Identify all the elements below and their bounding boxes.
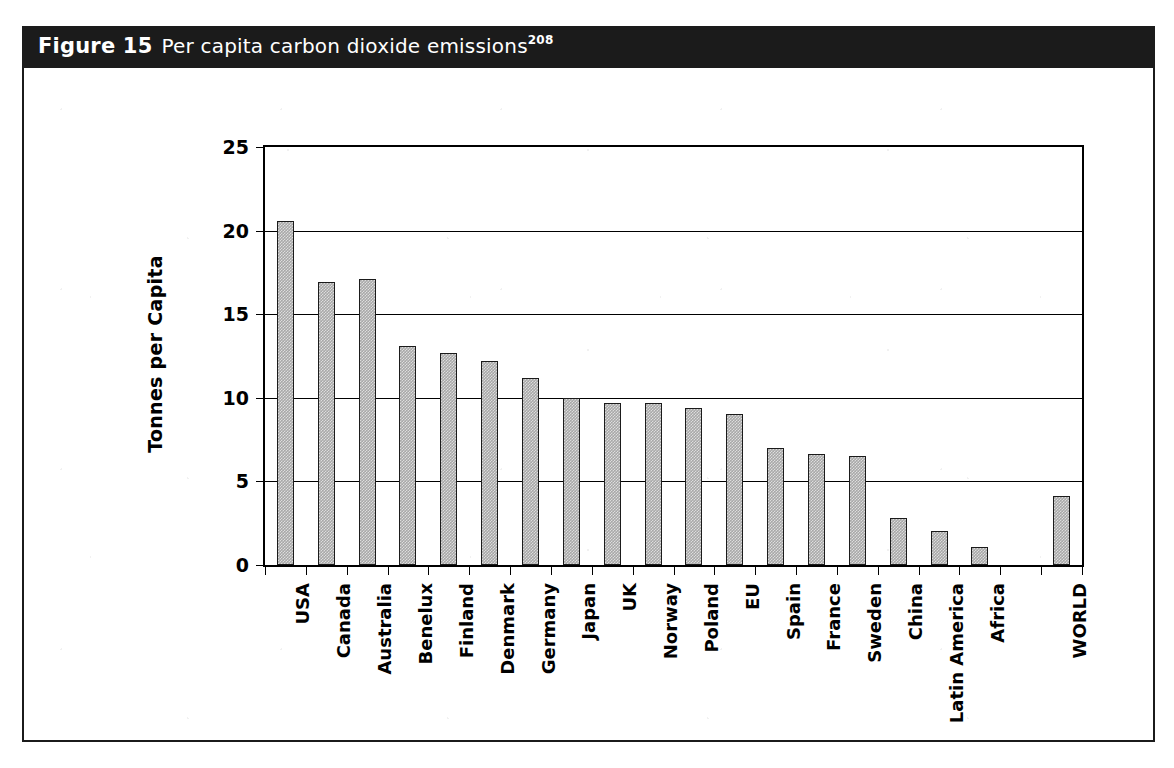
figure-footnote-superscript: 208: [528, 33, 554, 47]
x-axis-label-denmark: Denmark: [497, 583, 518, 675]
x-axis-tick: [428, 565, 429, 575]
x-axis-label-sweden: Sweden: [864, 583, 885, 663]
bar-japan: [563, 398, 580, 565]
x-axis-label-canada: Canada: [333, 583, 354, 658]
bar-finland: [440, 353, 457, 565]
figure-caption-text: Per capita carbon dioxide emissions: [161, 34, 527, 58]
x-axis-tick: [837, 565, 838, 575]
y-axis-tick: [256, 398, 265, 399]
x-axis-tick: [469, 565, 470, 575]
bar-latin-america: [931, 531, 948, 565]
bar-africa: [971, 547, 988, 565]
y-axis-tick-label: 20: [223, 220, 249, 242]
gridline: [265, 398, 1082, 399]
x-axis-label-norway: Norway: [660, 583, 681, 659]
gridline: [265, 481, 1082, 482]
bar-sweden: [849, 456, 866, 565]
x-axis-tick: [592, 565, 593, 575]
x-axis-tick: [265, 565, 266, 575]
x-axis-tick: [674, 565, 675, 575]
chart-panel: Tonnes per Capita 0510152025 USACanadaAu…: [22, 66, 1155, 742]
x-axis-label-world: WORLD: [1069, 583, 1090, 658]
x-axis-label-australia: Australia: [374, 583, 395, 675]
gridline: [265, 231, 1082, 232]
y-axis-tick-label: 5: [236, 470, 249, 492]
bar-germany: [522, 378, 539, 565]
x-axis-label-eu: EU: [742, 583, 763, 610]
x-axis-label-japan: Japan: [578, 583, 599, 640]
x-axis-label-uk: UK: [619, 583, 640, 612]
y-axis-title-text: Tonnes per Capita: [144, 255, 166, 453]
x-axis-tick: [1082, 565, 1083, 575]
x-axis-tick: [347, 565, 348, 575]
bar-norway: [645, 403, 662, 565]
x-axis-tick: [796, 565, 797, 575]
bar-spain: [767, 448, 784, 565]
bar-france: [808, 454, 825, 565]
bar-canada: [318, 282, 335, 565]
x-axis-tick: [959, 565, 960, 575]
y-axis-tick-label: 0: [236, 554, 249, 576]
y-axis-tick-label: 10: [223, 387, 249, 409]
figure-15-container: Figure 15 Per capita carbon dioxide emis…: [22, 26, 1155, 742]
x-axis-tick: [878, 565, 879, 575]
bar-australia: [359, 279, 376, 565]
y-axis-title: Tonnes per Capita: [142, 145, 168, 563]
bar-poland: [685, 408, 702, 565]
x-axis-label-germany: Germany: [538, 583, 559, 674]
bar-eu: [726, 414, 743, 565]
bar-world: [1053, 496, 1070, 565]
figure-number-label: Figure 15: [38, 34, 152, 58]
x-axis-label-usa: USA: [292, 583, 313, 625]
x-axis-label-benelux: Benelux: [415, 583, 436, 665]
y-axis-tick-label: 15: [223, 303, 249, 325]
y-axis-tick-label: 25: [223, 136, 249, 158]
bar-uk: [604, 403, 621, 565]
bar-usa: [277, 221, 294, 565]
y-axis-tick: [256, 231, 265, 232]
bar-benelux: [399, 346, 416, 565]
x-axis-label-africa: Africa: [987, 583, 1008, 643]
x-axis-tick: [633, 565, 634, 575]
x-axis-label-finland: Finland: [456, 583, 477, 658]
x-axis-tick: [388, 565, 389, 575]
x-axis-label-latin-america: Latin America: [946, 583, 967, 723]
bar-china: [890, 518, 907, 565]
figure-title-bar: Figure 15 Per capita carbon dioxide emis…: [22, 26, 1155, 66]
x-axis-tick: [551, 565, 552, 575]
bar-denmark: [481, 361, 498, 565]
x-axis-tick: [755, 565, 756, 575]
y-axis-tick: [256, 147, 265, 148]
x-axis-tick: [510, 565, 511, 575]
y-axis-tick: [256, 481, 265, 482]
plot-area: 0510152025 USACanadaAustraliaBeneluxFinl…: [263, 145, 1084, 567]
x-axis-label-poland: Poland: [701, 583, 722, 653]
x-axis-label-spain: Spain: [783, 583, 804, 640]
x-axis-label-france: France: [823, 583, 844, 651]
gridline: [265, 314, 1082, 315]
x-axis-tick: [714, 565, 715, 575]
x-axis-tick: [306, 565, 307, 575]
x-axis-tick: [1041, 565, 1042, 575]
x-axis-tick: [1000, 565, 1001, 575]
y-axis-tick: [256, 314, 265, 315]
y-axis-tick: [256, 565, 265, 566]
x-axis-tick: [919, 565, 920, 575]
x-axis-label-china: China: [905, 583, 926, 640]
